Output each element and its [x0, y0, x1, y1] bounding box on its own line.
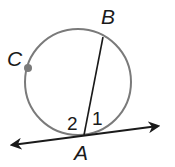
circle [25, 29, 131, 135]
point-a-label: A [72, 141, 88, 164]
angle-2-label: 2 [67, 113, 78, 134]
circle-tangent-chord-diagram: B C A 2 1 [0, 0, 175, 167]
point-b-label: B [101, 5, 115, 28]
point-c-dot [24, 64, 32, 72]
angle-1-label: 1 [92, 108, 103, 129]
point-c-label: C [7, 47, 23, 70]
